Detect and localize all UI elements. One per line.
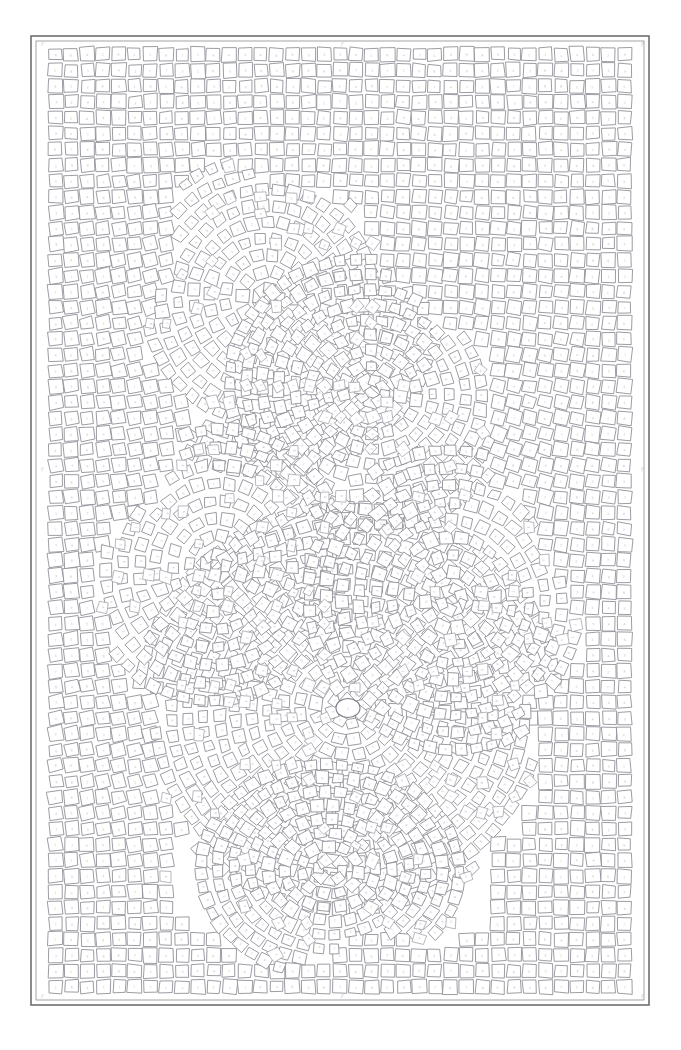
- tile-number: 7: [576, 132, 578, 136]
- tile-number: 7: [607, 796, 609, 800]
- tile-number: 4: [512, 69, 514, 73]
- tile-number: 3: [181, 148, 183, 152]
- tile-number: 4: [608, 623, 610, 627]
- tile-number: 7: [244, 986, 246, 990]
- tile-number: 1: [277, 189, 279, 193]
- tile-number: 3: [355, 954, 357, 958]
- tile-number: 6: [134, 195, 136, 199]
- tile-number: 3: [450, 919, 452, 923]
- tile-number: 1: [259, 479, 263, 481]
- tile-number: 6: [323, 69, 325, 73]
- tile-number: 4: [608, 748, 610, 752]
- tile-number: 7: [592, 732, 594, 736]
- tile-number: 6: [544, 69, 546, 73]
- tile-number: 2: [387, 164, 389, 168]
- tile-number: 2: [166, 100, 168, 104]
- tile-number: 4: [189, 562, 193, 564]
- tile-number: 2: [355, 986, 357, 990]
- tile-number: 8: [497, 290, 499, 294]
- tile-number: 9: [292, 70, 294, 74]
- tile-number: 9: [341, 600, 345, 602]
- tile-number: 5: [101, 164, 103, 168]
- tile-number: 3: [513, 274, 515, 278]
- tile-number: 1: [307, 117, 309, 121]
- mark-top-right: ┌: [640, 39, 644, 47]
- tile-number: 1: [70, 970, 72, 974]
- tile-number: 5: [229, 149, 231, 153]
- tile-number: 4: [591, 606, 593, 610]
- tile-number: 6: [276, 148, 278, 152]
- tile-number: 6: [592, 528, 594, 532]
- tile-number: 7: [276, 464, 280, 466]
- tile-number: 1: [260, 165, 262, 169]
- tile-number: 8: [624, 780, 626, 784]
- tile-number: 1: [417, 856, 419, 860]
- tile-number: 1: [197, 70, 199, 74]
- tile-number: 8: [497, 196, 499, 200]
- tile-number: 4: [172, 567, 176, 569]
- tile-number: 9: [164, 876, 168, 878]
- tile-number: 7: [498, 953, 500, 957]
- tile-number: 6: [118, 875, 120, 879]
- tile-number: 8: [71, 985, 73, 989]
- tile-number: 8: [576, 259, 578, 263]
- tile-number: 6: [544, 938, 546, 942]
- tile-number: 3: [481, 954, 483, 958]
- tile-number: 2: [387, 117, 389, 121]
- tile-number: 7: [576, 290, 578, 294]
- tile-number: 5: [402, 196, 404, 200]
- tile-number: 1: [575, 701, 577, 705]
- tile-number: 5: [433, 969, 435, 973]
- tile-number: 2: [338, 164, 340, 168]
- tile-number: 9: [369, 333, 371, 337]
- tile-number: 9: [544, 953, 546, 957]
- tile-number: 7: [386, 85, 388, 89]
- tile-number: 3: [576, 590, 578, 594]
- tile-number: 2: [497, 906, 499, 910]
- tile-number: 2: [134, 70, 136, 74]
- tile-number: 8: [166, 164, 168, 168]
- tile-number: 9: [369, 289, 371, 293]
- tile-number: 6: [560, 69, 562, 73]
- tile-number: 6: [214, 698, 216, 702]
- tile-number: 2: [393, 708, 397, 710]
- tile-number: 4: [623, 369, 625, 373]
- tile-number: 1: [165, 906, 167, 910]
- tile-number: 4: [118, 890, 120, 894]
- tile-number: 7: [624, 496, 626, 500]
- tile-number: 7: [102, 985, 104, 989]
- tile-number: 9: [418, 211, 420, 215]
- tile-number: 4: [197, 148, 199, 152]
- tile-number: 2: [608, 591, 610, 595]
- tile-number: 7: [434, 986, 436, 990]
- tile-number: 2: [433, 954, 435, 958]
- tile-number: 7: [418, 955, 420, 959]
- tile-number: 4: [544, 891, 546, 895]
- tile-number: 6: [87, 954, 89, 958]
- tile-number: 4: [149, 922, 151, 926]
- tile-number: 8: [371, 986, 373, 990]
- tile-number: 9: [576, 306, 578, 310]
- tile-number: 1: [259, 101, 261, 105]
- focal-eye-number: 1: [347, 707, 349, 711]
- tile-number: 5: [403, 116, 405, 120]
- tile-number: 6: [623, 796, 625, 800]
- tile-number: 8: [403, 986, 405, 990]
- tile-number: 9: [86, 53, 88, 57]
- tile-number: 8: [513, 844, 515, 848]
- tile-number: 1: [591, 196, 593, 200]
- tile-number: 9: [401, 243, 403, 247]
- tile-number: 5: [457, 659, 459, 663]
- tile-number: 8: [275, 54, 277, 58]
- tile-number: 6: [528, 163, 530, 167]
- tile-number: 3: [290, 196, 292, 200]
- tile-number: 5: [465, 211, 467, 215]
- tile-number: 3: [218, 464, 220, 468]
- tile-number: 2: [559, 227, 561, 231]
- tile-number: 6: [560, 685, 562, 689]
- tile-number: 6: [513, 986, 515, 990]
- tile-number: 4: [576, 954, 578, 958]
- tile-number: 1: [576, 811, 578, 815]
- tile-number: 7: [386, 69, 388, 73]
- tile-number: 6: [354, 258, 356, 262]
